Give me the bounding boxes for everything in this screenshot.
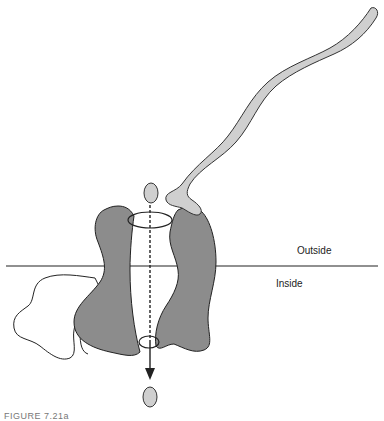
channel-right-subunit: [155, 207, 216, 351]
ion-inside: [143, 387, 157, 407]
ion-outside: [144, 183, 158, 203]
figure-caption: FIGURE 7.21a: [4, 411, 69, 421]
ion-channel-diagram: [0, 0, 384, 421]
arrow-down-icon: [145, 368, 155, 380]
label-outside: Outside: [297, 245, 331, 256]
toxin-peptide-chain: [166, 8, 378, 215]
label-inside: Inside: [276, 278, 303, 289]
